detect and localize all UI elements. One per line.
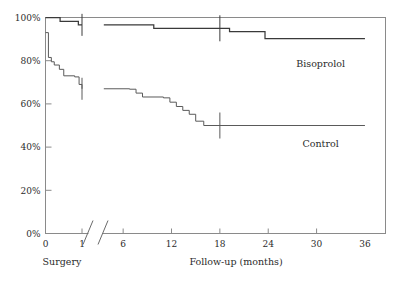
y-axis-tick-label: 100%: [15, 13, 41, 23]
x-axis-tick-label: 1: [79, 239, 85, 249]
x-axis-tick-label: 0: [43, 239, 49, 249]
x-axis-tick-label: 36: [359, 239, 371, 249]
series-label-control: Control: [303, 138, 339, 149]
series-label-bisoprolol: Bisoprolol: [296, 58, 345, 69]
kaplan-meier-chart: 0%20%40%60%80%100%0161218243036SurgeryFo…: [0, 0, 406, 286]
survival-curve-control: [46, 33, 365, 126]
y-axis-tick-label: 80%: [20, 56, 40, 66]
y-axis-tick-label: 60%: [20, 99, 40, 109]
x-axis-tick-label: 12: [166, 239, 177, 249]
survival-plot-svg: 0%20%40%60%80%100%0161218243036SurgeryFo…: [0, 0, 406, 286]
x-axis-tick-label: 18: [214, 239, 226, 249]
y-axis-tick-label: 0%: [26, 229, 41, 239]
axis-break-mask: [89, 231, 103, 238]
survival-curve-bisoprolol: [46, 18, 365, 39]
y-axis-tick-label: 20%: [20, 186, 40, 196]
origin-axis-label: Surgery: [43, 256, 82, 267]
x-axis-tick-label: 24: [263, 239, 275, 249]
x-axis-title: Follow-up (months): [189, 256, 282, 267]
x-axis-tick-label: 6: [120, 239, 126, 249]
x-axis-tick-label: 30: [311, 239, 323, 249]
y-axis-tick-label: 40%: [20, 142, 40, 152]
